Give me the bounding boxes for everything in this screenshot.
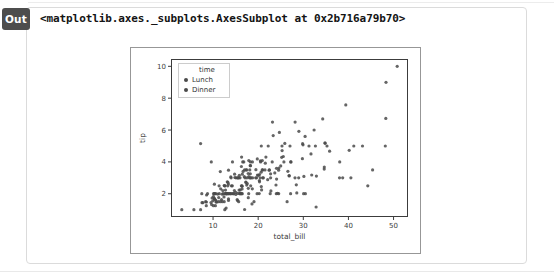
scatter-point bbox=[267, 144, 270, 147]
scatter-point bbox=[256, 192, 259, 195]
scatter-point bbox=[242, 160, 245, 163]
scatter-point bbox=[211, 199, 214, 202]
scatter-point bbox=[236, 176, 239, 179]
scatter-point bbox=[239, 188, 242, 191]
scatter-point bbox=[302, 192, 305, 195]
scatter-point bbox=[310, 173, 313, 176]
scatter-point bbox=[344, 103, 347, 106]
scatter-point bbox=[229, 192, 232, 195]
scatter-point bbox=[230, 176, 233, 179]
axes-repr-text: <matplotlib.axes._subplots.AxesSubplot a… bbox=[40, 12, 405, 25]
out-badge: Out bbox=[2, 8, 30, 30]
scatter-point bbox=[251, 176, 254, 179]
legend-label-dinner: Dinner bbox=[192, 85, 215, 95]
scatter-point bbox=[254, 168, 257, 171]
scatter-point bbox=[349, 176, 352, 179]
scatter-point bbox=[294, 121, 297, 124]
scatter-point bbox=[269, 192, 272, 195]
scatter-point bbox=[274, 183, 277, 186]
scatter-point bbox=[352, 144, 355, 147]
scatter-point bbox=[328, 150, 331, 153]
x-tick-label: 50 bbox=[389, 222, 398, 230]
scatter-point bbox=[219, 200, 222, 203]
scatter-point bbox=[297, 176, 300, 179]
scatter-point bbox=[371, 168, 374, 171]
scatter-point bbox=[269, 172, 272, 175]
scatter-point bbox=[281, 149, 284, 152]
scatter-point bbox=[277, 169, 280, 172]
scatter-point bbox=[247, 187, 250, 190]
scatter-point bbox=[260, 188, 263, 191]
scatter-point bbox=[223, 200, 226, 203]
scatter-point bbox=[249, 164, 252, 167]
y-tick-label: 8 bbox=[162, 95, 166, 103]
scatter-point bbox=[341, 176, 344, 179]
scatter-point bbox=[227, 169, 230, 172]
scatter-point bbox=[264, 162, 267, 165]
scatter-point bbox=[247, 196, 250, 199]
y-axis-label: tip bbox=[138, 133, 147, 143]
scatter-point bbox=[240, 156, 243, 159]
scatter-point bbox=[269, 176, 272, 179]
scatter-point bbox=[295, 191, 298, 194]
scatter-point bbox=[241, 173, 244, 176]
scatter-point bbox=[271, 160, 274, 163]
scatter-point bbox=[223, 208, 226, 211]
scatter-point bbox=[231, 160, 234, 163]
scatter-point bbox=[251, 160, 254, 163]
scatter-point bbox=[199, 208, 202, 211]
scatter-point bbox=[366, 184, 369, 187]
scatter-point bbox=[248, 168, 251, 171]
scatter-point bbox=[273, 171, 276, 174]
scatter-point bbox=[301, 142, 304, 145]
scatter-point bbox=[217, 196, 220, 199]
scatter-point bbox=[226, 184, 229, 187]
scatter-point bbox=[218, 184, 221, 187]
scatter-point bbox=[215, 201, 218, 204]
scatter-point bbox=[301, 157, 304, 160]
scatter-point bbox=[282, 160, 285, 163]
scatter-point bbox=[268, 169, 271, 172]
scatter-point bbox=[206, 192, 209, 195]
scatter-point bbox=[212, 204, 215, 207]
y-tick-label: 4 bbox=[162, 158, 167, 166]
cell-divider-top bbox=[28, 2, 554, 3]
scatter-point bbox=[199, 142, 202, 145]
scatter-point bbox=[361, 144, 364, 147]
scatter-point bbox=[288, 174, 291, 177]
scatter-point bbox=[260, 144, 263, 147]
scatter-point bbox=[226, 192, 229, 195]
scatter-point bbox=[384, 117, 387, 120]
scatter-point bbox=[288, 144, 291, 147]
scatter-point bbox=[213, 183, 216, 186]
scatter-point bbox=[278, 131, 281, 134]
scatter-point bbox=[233, 173, 236, 176]
scatter-point bbox=[297, 130, 300, 133]
dinner-marker-icon bbox=[184, 88, 188, 92]
scatter-point bbox=[304, 135, 307, 138]
scatter-point bbox=[295, 183, 298, 186]
scatter-point bbox=[279, 164, 282, 167]
scatter-point bbox=[302, 175, 305, 178]
scatter-point bbox=[384, 81, 387, 84]
scatter-point bbox=[221, 193, 224, 196]
x-tick-label: 30 bbox=[299, 222, 308, 230]
legend-title: time bbox=[179, 65, 229, 75]
scatter-point bbox=[244, 180, 247, 183]
scatter-point bbox=[243, 208, 246, 211]
scatter-point bbox=[264, 156, 267, 159]
scatter-point bbox=[226, 181, 229, 184]
scatter-point bbox=[280, 156, 283, 159]
scatter-point bbox=[313, 128, 316, 131]
scatter-point bbox=[307, 144, 310, 147]
scatter-point bbox=[321, 117, 324, 120]
scatter-point bbox=[259, 176, 262, 179]
lunch-marker-icon bbox=[184, 78, 188, 82]
scatter-point bbox=[271, 121, 274, 124]
scatter-point bbox=[261, 168, 264, 171]
scatter-point bbox=[219, 170, 222, 173]
scatter-point bbox=[258, 180, 261, 183]
y-tick-label: 2 bbox=[162, 190, 166, 198]
scatter-point bbox=[323, 141, 326, 144]
scatter-point bbox=[180, 208, 183, 211]
